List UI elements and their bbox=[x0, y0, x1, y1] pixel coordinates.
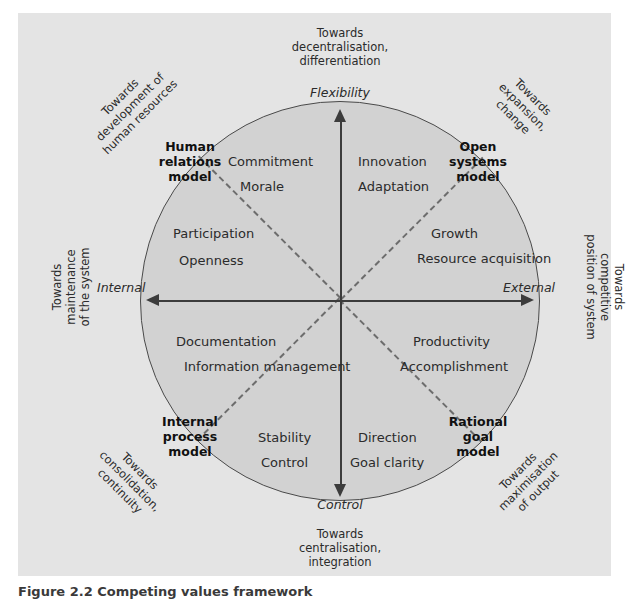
vertical-axis bbox=[340, 117, 342, 489]
horizontal-axis bbox=[154, 300, 526, 302]
outer-label-bottom: Towards centralisation, integration bbox=[265, 527, 415, 569]
quadrant-item-morale: Morale bbox=[240, 178, 284, 195]
arrow-up-icon bbox=[334, 109, 346, 122]
quadrant-item-growth: Growth bbox=[431, 225, 478, 242]
quadrant-item-stability: Stability bbox=[258, 429, 311, 446]
model-label-open-systems: Open systems model bbox=[418, 139, 538, 184]
quadrant-item-accomplishment: Accomplishment bbox=[400, 358, 508, 375]
figure-caption-text: Competing values framework bbox=[97, 584, 312, 599]
quadrant-item-resource-acquisition: Resource acquisition bbox=[417, 250, 551, 267]
quadrant-item-adaptation: Adaptation bbox=[358, 178, 429, 195]
quadrant-item-innovation: Innovation bbox=[358, 153, 427, 170]
axis-label-control: Control bbox=[290, 497, 390, 513]
quadrant-item-direction: Direction bbox=[358, 429, 417, 446]
outer-label-left: Towards maintenance of the system bbox=[50, 212, 92, 362]
quadrant-item-information-management: Information management bbox=[184, 358, 350, 375]
axis-label-flexibility: Flexibility bbox=[290, 85, 390, 101]
model-label-rational-goal: Rational goal model bbox=[418, 414, 538, 459]
figure-caption: Figure 2.2 Competing values framework bbox=[18, 584, 312, 599]
model-label-internal-process: Internal process model bbox=[130, 414, 250, 459]
arrow-down-icon bbox=[334, 484, 346, 497]
quadrant-item-documentation: Documentation bbox=[176, 333, 276, 350]
quadrant-item-productivity: Productivity bbox=[413, 333, 490, 350]
figure-caption-label: Figure 2.2 bbox=[18, 584, 93, 599]
quadrant-item-participation: Participation bbox=[173, 225, 254, 242]
quadrant-item-control: Control bbox=[261, 454, 308, 471]
quadrant-item-openness: Openness bbox=[179, 252, 244, 269]
outer-label-top: Towards decentralisation, differentiatio… bbox=[265, 26, 415, 68]
figure-panel: Towards decentralisation, differentiatio… bbox=[18, 13, 611, 576]
axis-label-internal: Internal bbox=[97, 280, 177, 296]
quadrant-item-goal-clarity: Goal clarity bbox=[350, 454, 424, 471]
axis-label-external: External bbox=[503, 280, 593, 296]
figure-page: Towards decentralisation, differentiatio… bbox=[0, 0, 629, 605]
quadrant-item-commitment: Commitment bbox=[228, 153, 313, 170]
